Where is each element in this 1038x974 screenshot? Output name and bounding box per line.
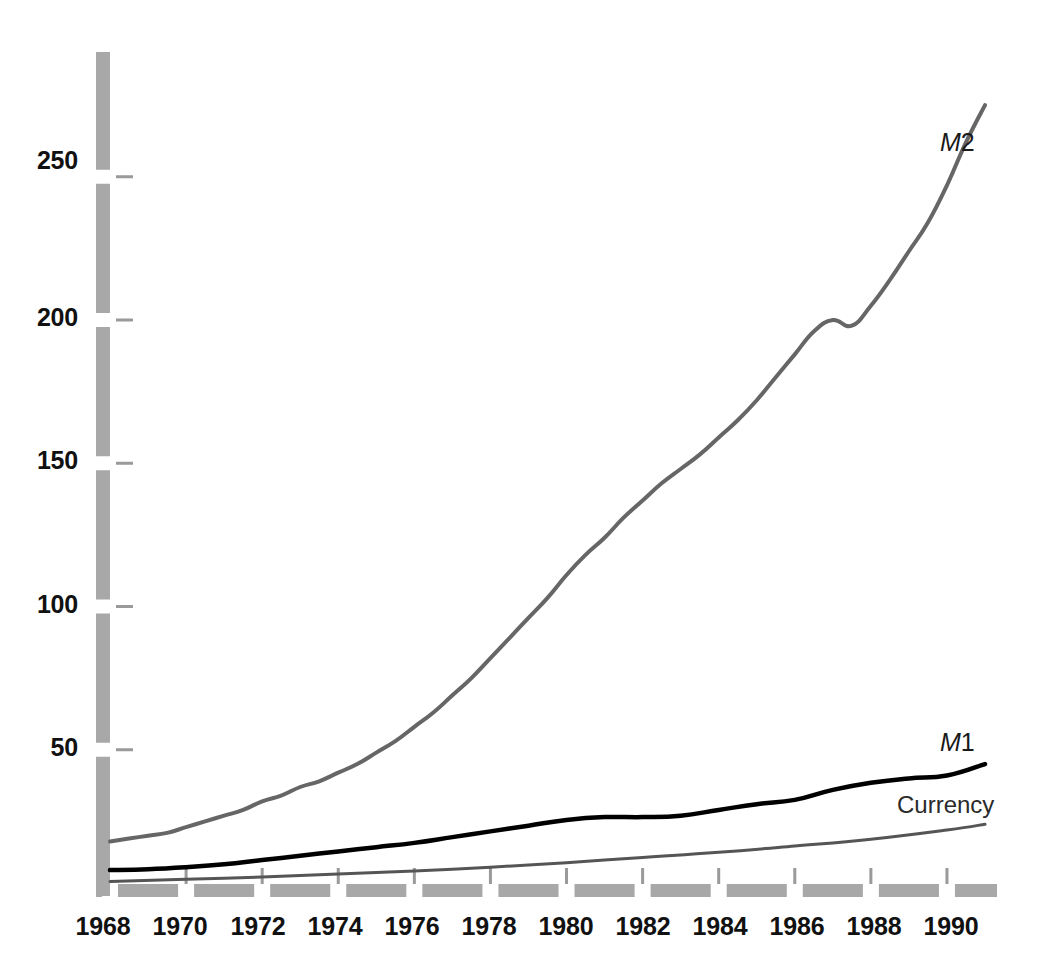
y-tick-label-150: 150 bbox=[8, 446, 78, 475]
x-tick-label-1970: 1970 bbox=[135, 912, 225, 941]
series-line-m2 bbox=[110, 105, 985, 841]
chart-plot-area bbox=[0, 0, 1038, 974]
series-label-m1-italic: M bbox=[940, 728, 961, 756]
series-label-m1-upright: 1 bbox=[961, 728, 975, 756]
series-label-m2: M2 bbox=[940, 128, 975, 157]
y-tick-label-50: 50 bbox=[8, 733, 78, 762]
chart-figure: 250 200 150 100 50 1968 1970 1972 1974 1… bbox=[0, 0, 1038, 974]
series-line-currency bbox=[110, 824, 985, 881]
x-tick-label-1990: 1990 bbox=[906, 912, 996, 941]
series-line-m1 bbox=[110, 764, 985, 870]
y-axis bbox=[96, 52, 110, 896]
series-label-currency: Currency bbox=[897, 791, 994, 819]
series-label-m1: M1 bbox=[940, 728, 975, 757]
data-series-group bbox=[110, 105, 985, 881]
series-label-m2-upright: 2 bbox=[961, 128, 975, 156]
y-axis-tick-marks bbox=[116, 175, 133, 751]
y-tick-label-200: 200 bbox=[8, 303, 78, 332]
y-tick-label-250: 250 bbox=[8, 146, 78, 175]
y-tick-label-100: 100 bbox=[8, 590, 78, 619]
series-label-m2-italic: M bbox=[940, 128, 961, 156]
x-axis bbox=[96, 884, 997, 897]
